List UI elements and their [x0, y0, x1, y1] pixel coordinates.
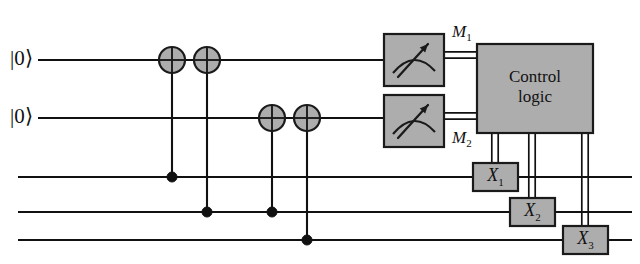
- measurement-gate-2-output-label: M2: [452, 128, 472, 149]
- ket-zero-wire-2: |0⟩: [10, 104, 33, 129]
- cnot-4[interactable]: [294, 105, 320, 245]
- circuit-canvas: [0, 0, 640, 264]
- cnot-2-target-circle: [194, 47, 220, 73]
- x-gate-2-label: X2: [510, 200, 555, 223]
- cnot-3[interactable]: [259, 105, 285, 217]
- quantum-circuit-figure: |0⟩|0⟩M1M2ControllogicX1X2X3: [0, 0, 640, 264]
- control-logic-label: Controllogic: [477, 67, 593, 107]
- cnot-3-control-dot: [267, 207, 277, 217]
- cnot-4-control-dot: [302, 235, 312, 245]
- control-logic-line-2: logic: [477, 87, 593, 107]
- x-gate-1-label: X1: [473, 165, 518, 188]
- control-logic-line-1: Control: [477, 67, 593, 87]
- classical-bus-m2: [444, 113, 477, 119]
- classical-bus-x1: [492, 133, 498, 163]
- cnot-4-target-circle: [294, 105, 320, 131]
- cnot-2-control-dot: [202, 207, 212, 217]
- measurement-gate-2[interactable]: [384, 95, 444, 147]
- cnot-3-target-circle: [259, 105, 285, 131]
- measurement-gates-layer: [384, 34, 444, 147]
- cnot-1-control-dot: [167, 172, 177, 182]
- measurement-gate-1-output-label: M1: [452, 22, 472, 43]
- classical-bus-x2: [529, 133, 535, 198]
- cnot-gates-layer: [159, 47, 320, 245]
- cnot-2[interactable]: [194, 47, 220, 217]
- x-gate-3-label: X3: [563, 228, 608, 251]
- classical-bus-m1: [444, 52, 477, 58]
- ket-zero-wire-1: |0⟩: [10, 46, 33, 71]
- cnot-1-target-circle: [159, 47, 185, 73]
- cnot-1[interactable]: [159, 47, 185, 182]
- measurement-gate-1[interactable]: [384, 34, 444, 86]
